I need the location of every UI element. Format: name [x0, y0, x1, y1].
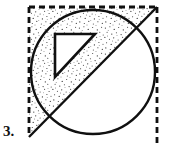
geometry-figure — [0, 0, 170, 153]
item-number-label: 3. — [3, 123, 14, 140]
figure-container: 3. — [0, 0, 170, 153]
stipple-shaded-region — [0, 0, 170, 153]
